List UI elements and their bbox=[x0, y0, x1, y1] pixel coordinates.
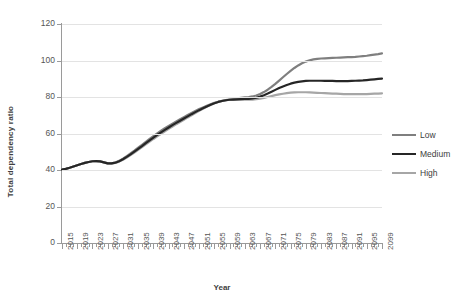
x-tick-label: 2079 bbox=[309, 232, 318, 250]
x-tick-mark bbox=[291, 244, 292, 249]
x-tick-mark bbox=[275, 244, 276, 249]
gridline bbox=[62, 97, 382, 98]
gridline bbox=[62, 207, 382, 208]
x-tick-mark bbox=[199, 244, 200, 249]
series-line-high bbox=[62, 92, 382, 169]
x-tick-label: 2095 bbox=[370, 232, 379, 250]
x-tick-mark bbox=[153, 244, 154, 249]
x-tick-mark bbox=[367, 244, 368, 249]
x-tick-label: 2075 bbox=[294, 232, 303, 250]
y-tick-label: 100 bbox=[3, 55, 55, 65]
x-tick-label: 2071 bbox=[279, 232, 288, 250]
legend-label: High bbox=[420, 168, 437, 178]
x-tick-label: 2051 bbox=[203, 232, 212, 250]
x-tick-mark bbox=[214, 244, 215, 249]
legend-item-medium[interactable]: Medium bbox=[392, 149, 450, 159]
y-tick-label: 60 bbox=[3, 128, 55, 138]
x-tick-mark bbox=[62, 244, 63, 249]
y-tick-label: 40 bbox=[3, 164, 55, 174]
y-axis-title: Total dependency ratio bbox=[2, 0, 18, 303]
series-line-low bbox=[62, 53, 382, 169]
x-tick-mark bbox=[321, 244, 322, 249]
x-axis-title: Year bbox=[62, 283, 382, 292]
chart-container: Total dependency ratio 020406080100120 2… bbox=[0, 0, 475, 303]
x-tick-label: 2091 bbox=[355, 232, 364, 250]
x-tick-label: 2019 bbox=[81, 232, 90, 250]
series-line-medium bbox=[62, 79, 382, 170]
y-tick-label: 20 bbox=[3, 201, 55, 211]
x-tick-label: 2031 bbox=[126, 232, 135, 250]
x-tick-mark bbox=[260, 244, 261, 249]
gridline bbox=[62, 170, 382, 171]
legend-item-low[interactable]: Low bbox=[392, 130, 450, 140]
x-tick-mark bbox=[138, 244, 139, 249]
x-tick-mark bbox=[245, 244, 246, 249]
x-tick-mark bbox=[77, 244, 78, 249]
x-tick-label: 2015 bbox=[66, 232, 75, 250]
x-tick-label: 2039 bbox=[157, 232, 166, 250]
legend-label: Low bbox=[420, 130, 436, 140]
gridline bbox=[62, 134, 382, 135]
x-tick-mark bbox=[230, 244, 231, 249]
x-tick-label: 2047 bbox=[187, 232, 196, 250]
x-tick-label: 2027 bbox=[111, 232, 120, 250]
legend-item-high[interactable]: High bbox=[392, 168, 450, 178]
plot-area bbox=[62, 24, 382, 243]
legend-swatch-medium bbox=[392, 153, 416, 155]
x-tick-label: 2067 bbox=[264, 232, 273, 250]
x-tick-mark bbox=[92, 244, 93, 249]
y-tick-label: 120 bbox=[3, 18, 55, 28]
x-tick-label: 2023 bbox=[96, 232, 105, 250]
x-tick-label: 2087 bbox=[340, 232, 349, 250]
y-tick-label: 80 bbox=[3, 91, 55, 101]
x-tick-label: 2099 bbox=[386, 232, 395, 250]
x-tick-mark bbox=[382, 244, 383, 249]
gridline bbox=[62, 24, 382, 25]
x-tick-mark bbox=[336, 244, 337, 249]
legend-label: Medium bbox=[420, 149, 450, 159]
legend: LowMediumHigh bbox=[392, 130, 450, 178]
x-tick-mark bbox=[169, 244, 170, 249]
x-tick-label: 2055 bbox=[218, 232, 227, 250]
x-tick-mark bbox=[306, 244, 307, 249]
x-tick-mark bbox=[108, 244, 109, 249]
x-tick-label: 2059 bbox=[233, 232, 242, 250]
x-tick-mark bbox=[123, 244, 124, 249]
x-tick-label: 2043 bbox=[172, 232, 181, 250]
x-tick-label: 2083 bbox=[325, 232, 334, 250]
gridline bbox=[62, 61, 382, 62]
x-tick-mark bbox=[184, 244, 185, 249]
x-tick-mark bbox=[352, 244, 353, 249]
legend-swatch-low bbox=[392, 134, 416, 136]
legend-swatch-high bbox=[392, 172, 416, 174]
x-tick-label: 2063 bbox=[248, 232, 257, 250]
x-tick-label: 2035 bbox=[142, 232, 151, 250]
y-tick-label: 0 bbox=[3, 237, 55, 247]
